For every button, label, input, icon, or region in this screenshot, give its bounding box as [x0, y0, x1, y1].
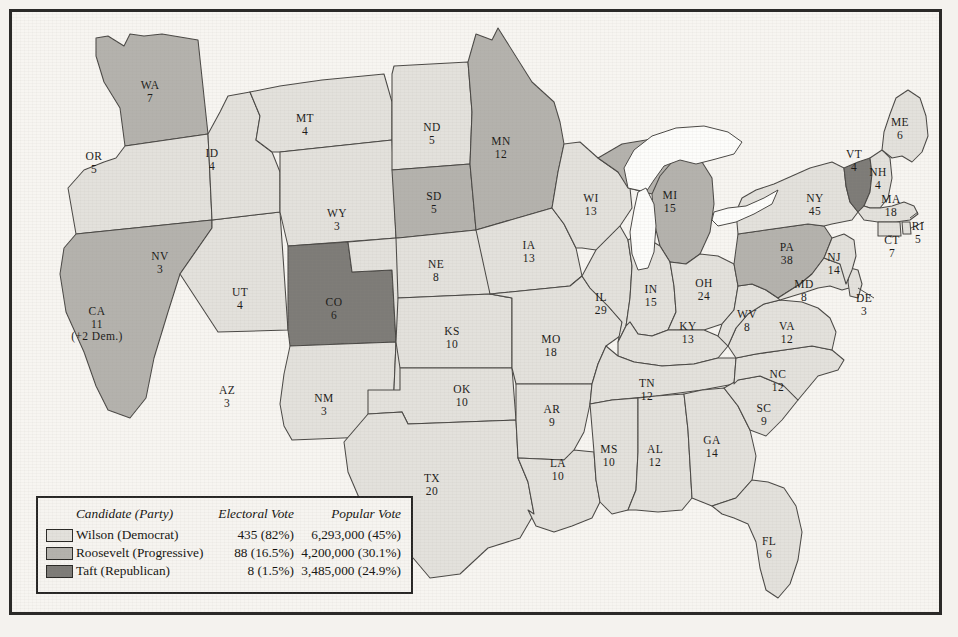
state-label-WI: WI13	[583, 192, 598, 217]
state-label-PA: PA38	[780, 241, 795, 266]
legend-popular-roosevelt: 4,200,000 (30.1%)	[294, 544, 401, 562]
state-label-NV: NV3	[151, 250, 169, 275]
state-label-NJ: NJ14	[827, 251, 841, 276]
legend-header-electoral: Electoral Vote	[213, 505, 294, 526]
legend-table: Candidate (Party) Electoral Vote Popular…	[46, 505, 401, 580]
state-label-GA: GA14	[703, 434, 721, 459]
state-label-ID: ID4	[206, 147, 219, 172]
state-label-WA: WA7	[141, 79, 160, 104]
state-label-AZ: AZ3	[219, 384, 235, 409]
legend-row-taft: Taft (Republican)8 (1.5%)3,485,000 (24.9…	[46, 562, 401, 580]
state-label-MA: MA18	[881, 193, 901, 218]
state-label-VA: VA12	[779, 320, 795, 345]
legend-electoral-taft: 8 (1.5%)	[213, 562, 294, 580]
state-label-SD: SD5	[426, 190, 442, 215]
legend-candidate-wilson: Wilson (Democrat)	[76, 526, 213, 544]
state-label-IA: IA13	[523, 239, 536, 264]
color-swatch-taft	[46, 565, 73, 578]
state-label-ND: ND5	[423, 121, 440, 146]
legend-swatch-cell-taft	[46, 562, 76, 580]
state-label-AR: AR9	[544, 403, 561, 428]
legend-header-swatch	[46, 505, 76, 526]
state-label-SC: SC9	[757, 402, 772, 427]
state-label-MN: MN12	[491, 135, 511, 160]
state-label-KS: KS10	[444, 325, 460, 350]
state-label-WY: WY3	[327, 207, 347, 232]
legend-popular-wilson: 6,293,000 (45%)	[294, 526, 401, 544]
legend-swatch-cell-wilson	[46, 526, 76, 544]
state-label-AL: AL12	[647, 443, 663, 468]
state-label-NM: NM3	[314, 392, 333, 417]
legend-header-candidate: Candidate (Party)	[76, 505, 213, 526]
state-label-CA: CA11(+2 Dem.)	[71, 305, 123, 343]
state-label-NH: NH4	[869, 166, 886, 191]
legend-swatch-cell-roosevelt	[46, 544, 76, 562]
state-label-IN: IN15	[645, 283, 658, 308]
state-label-OH: OH24	[695, 277, 712, 302]
state-label-MT: MT4	[296, 112, 314, 137]
legend-row-wilson: Wilson (Democrat)435 (82%)6,293,000 (45%…	[46, 526, 401, 544]
state-label-CT: CT7	[884, 234, 900, 259]
state-label-OR: OR5	[86, 150, 103, 175]
color-swatch-wilson	[46, 529, 73, 542]
state-label-MS: MS10	[600, 443, 617, 468]
state-label-IL: IL29	[595, 291, 607, 316]
state-label-NC: NC12	[770, 368, 787, 393]
map-page: WA7OR5CA11(+2 Dem.)NV3ID4MT4WY3UT4AZ3CO6…	[0, 0, 958, 637]
state-label-MI: MI15	[663, 189, 678, 214]
state-label-KY: KY13	[679, 320, 697, 345]
state-label-FL: FL6	[762, 535, 776, 560]
state-label-TN: TN12	[639, 377, 655, 402]
legend-header-row: Candidate (Party) Electoral Vote Popular…	[46, 505, 401, 526]
state-label-NE: NE8	[428, 258, 444, 283]
legend-body: Wilson (Democrat)435 (82%)6,293,000 (45%…	[46, 526, 401, 580]
legend-header-popular: Popular Vote	[294, 505, 401, 526]
state-label-DE: DE3	[856, 292, 872, 317]
state-label-WV: WV8	[737, 308, 757, 333]
state-label-CO: CO6	[326, 296, 343, 321]
legend-row-roosevelt: Roosevelt (Progressive)88 (16.5%)4,200,0…	[46, 544, 401, 562]
state-label-MO: MO18	[541, 333, 560, 358]
state-label-TX: TX20	[424, 472, 440, 497]
state-label-VT: VT4	[846, 148, 862, 173]
state-label-OK: OK10	[453, 383, 471, 408]
legend-popular-taft: 3,485,000 (24.9%)	[294, 562, 401, 580]
color-swatch-roosevelt	[46, 547, 73, 560]
state-label-LA: LA10	[550, 457, 566, 482]
state-label-ME: ME6	[891, 116, 909, 141]
legend-electoral-wilson: 435 (82%)	[213, 526, 294, 544]
state-label-RI: RI5	[912, 220, 924, 245]
legend-candidate-roosevelt: Roosevelt (Progressive)	[76, 544, 213, 562]
state-label-MD: MD8	[794, 278, 813, 303]
legend-candidate-taft: Taft (Republican)	[76, 562, 213, 580]
state-label-NY: NY45	[806, 192, 824, 217]
legend-electoral-roosevelt: 88 (16.5%)	[213, 544, 294, 562]
map-frame: WA7OR5CA11(+2 Dem.)NV3ID4MT4WY3UT4AZ3CO6…	[9, 9, 942, 615]
legend-box: Candidate (Party) Electoral Vote Popular…	[36, 496, 413, 594]
state-label-UT: UT4	[232, 286, 248, 311]
